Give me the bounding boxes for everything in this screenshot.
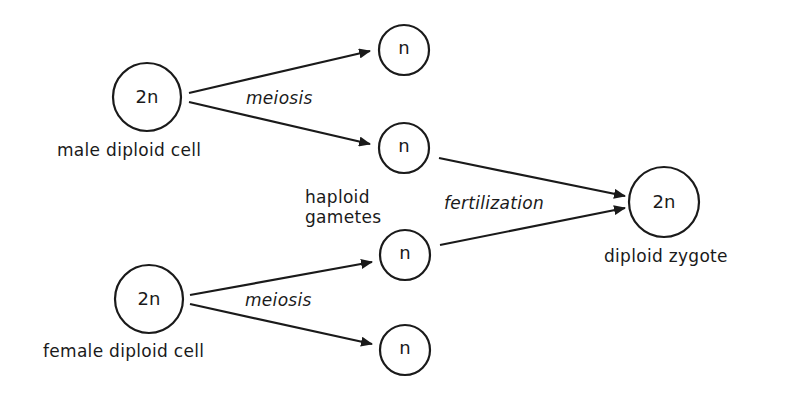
haploid-label-line1: haploid xyxy=(305,187,370,207)
female-diploid-label: 2n xyxy=(119,289,179,309)
meiosis-female-label: meiosis xyxy=(245,290,312,310)
meiosis-male-label: meiosis xyxy=(246,88,313,108)
arrow-meiosis-male-2 xyxy=(189,102,370,144)
male-diploid-caption: male diploid cell xyxy=(57,140,201,160)
arrow-fertilization-male xyxy=(439,158,625,196)
female-gamete-2-label: n xyxy=(385,338,425,358)
arrow-meiosis-male-1 xyxy=(189,51,370,93)
female-diploid-caption: female diploid cell xyxy=(43,341,204,361)
zygote-label: 2n xyxy=(634,192,694,212)
fertilization-label: fertilization xyxy=(444,193,544,213)
female-gamete-1-label: n xyxy=(385,243,425,263)
zygote-caption: diploid zygote xyxy=(604,246,728,266)
male-diploid-label: 2n xyxy=(117,87,177,107)
haploid-label-line2: gametes xyxy=(305,207,381,227)
arrow-meiosis-female-2 xyxy=(190,304,372,344)
arrow-fertilization-female xyxy=(440,208,625,245)
male-gamete-2-label: n xyxy=(384,136,424,156)
male-gamete-1-label: n xyxy=(384,38,424,58)
